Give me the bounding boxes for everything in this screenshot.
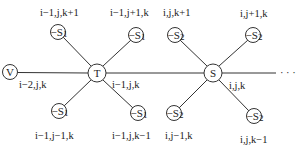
svg-text:−S: −S [167, 107, 179, 119]
coord-label-s-bottom-left: i,j−1,k [165, 130, 193, 141]
node-s2-bottom-right: −S2 [247, 109, 264, 124]
svg-text:−S: −S [51, 26, 63, 38]
svg-text:S: S [210, 67, 216, 79]
coord-label-s: i,j,k [229, 80, 246, 91]
node-t: T [88, 64, 106, 82]
edge-t-s1-tl [63, 37, 91, 66]
node-s: S [204, 64, 222, 82]
svg-text:1: 1 [64, 108, 69, 118]
edge-s-s2-bl [179, 80, 207, 108]
node-s2-bottom-left: −S2 [167, 106, 184, 121]
node-v: V [3, 65, 18, 80]
coord-label-t-top-left: i−1,j,k+1 [40, 7, 79, 18]
edge-v-t [18, 73, 89, 74]
continuation-dots: · · · [280, 67, 296, 78]
svg-text:1: 1 [141, 32, 146, 42]
svg-text:−S: −S [129, 29, 141, 41]
svg-text:−S: −S [168, 29, 180, 41]
svg-text:−S: −S [131, 107, 143, 119]
node-s1-bottom-left: −S1 [52, 104, 69, 119]
svg-text:V: V [6, 66, 14, 78]
stencil-diagram: · · · V T S −S1 −S1 −S1 −S1 −S2 [0, 0, 308, 152]
svg-text:1: 1 [63, 29, 68, 39]
node-s2-top-right: −S2 [246, 28, 263, 43]
node-s1-top-left: −S1 [51, 25, 68, 40]
node-s2-top-left: −S2 [168, 28, 185, 43]
node-s1-bottom-right: −S1 [131, 106, 148, 121]
svg-text:T: T [94, 67, 101, 79]
edge-s-s2-tl [180, 40, 207, 66]
svg-text:2: 2 [258, 32, 263, 42]
edge-t-s1-tr [103, 40, 131, 66]
svg-text:−S: −S [247, 110, 259, 122]
coord-label-s-top-left: i,j,k+1 [163, 7, 191, 18]
coord-label-v: i−2,j,k [19, 79, 47, 90]
coord-label-s-bottom-right: i,j,k−1 [240, 134, 268, 145]
svg-text:2: 2 [179, 110, 184, 120]
svg-text:2: 2 [259, 113, 264, 123]
edge-s-s2-tr [219, 40, 248, 66]
svg-text:−S: −S [246, 29, 258, 41]
coord-label-t: i−1,j,k [112, 79, 140, 90]
node-s1-top-right: −S1 [129, 28, 146, 43]
svg-text:1: 1 [143, 110, 148, 120]
svg-text:2: 2 [180, 32, 185, 42]
coord-label-t-bottom-right: i−1,j,k−1 [112, 130, 151, 141]
coord-label-t-bottom-left: i−1,j−1,k [35, 130, 74, 141]
coord-label-t-top-right: i−1,j+1,k [110, 7, 149, 18]
coord-label-s-top-right: i,j+1,k [240, 8, 268, 19]
edge-t-s1-bl [64, 80, 91, 106]
svg-text:−S: −S [52, 105, 64, 117]
